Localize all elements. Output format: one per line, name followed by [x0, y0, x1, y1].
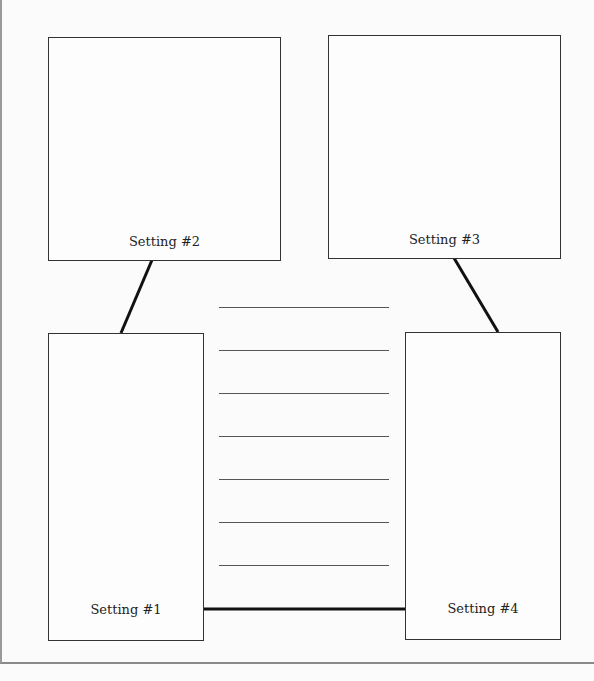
setting-4-box: Setting #4: [405, 332, 561, 640]
setting-4-label: Setting #4: [406, 601, 560, 616]
setting-2-label: Setting #2: [49, 234, 280, 249]
writing-line: [219, 350, 389, 351]
setting-3-label: Setting #3: [329, 232, 560, 247]
writing-line: [219, 436, 389, 437]
writing-line: [219, 307, 389, 308]
writing-line: [219, 522, 389, 523]
connector-3-to-4: [454, 258, 498, 332]
setting-1-box: Setting #1: [48, 333, 204, 641]
setting-2-box: Setting #2: [48, 37, 281, 261]
setting-1-label: Setting #1: [49, 602, 203, 617]
setting-3-box: Setting #3: [328, 35, 561, 259]
connector-2-to-1: [121, 260, 152, 333]
writing-line: [219, 393, 389, 394]
writing-line: [219, 479, 389, 480]
writing-line: [219, 565, 389, 566]
